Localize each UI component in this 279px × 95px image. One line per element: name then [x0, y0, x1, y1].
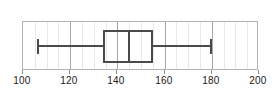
x-tick-label: 200: [243, 75, 273, 87]
box-whisker-layer: [23, 22, 257, 69]
whisker-cap-max: [210, 39, 212, 54]
boxplot-figure: 100120140160180200: [0, 0, 279, 95]
x-tick-mark: [164, 70, 165, 74]
x-tick-mark: [22, 70, 23, 74]
whisker-lower: [37, 45, 103, 47]
x-tick-label: 100: [7, 75, 37, 87]
x-tick-mark: [211, 70, 212, 74]
x-tick-mark: [116, 70, 117, 74]
x-tick-mark: [258, 70, 259, 74]
x-tick-label: 180: [196, 75, 226, 87]
x-tick-label: 120: [54, 75, 84, 87]
plot-area: [22, 21, 258, 70]
x-tick-label: 140: [101, 75, 131, 87]
whisker-upper: [153, 45, 212, 47]
x-tick-label: 160: [149, 75, 179, 87]
x-tick-mark: [69, 70, 70, 74]
whisker-cap-min: [37, 39, 39, 54]
median-line: [128, 30, 130, 63]
